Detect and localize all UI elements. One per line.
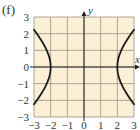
y-axis-label: y bbox=[87, 4, 93, 16]
y-axis-arrow-icon bbox=[82, 11, 87, 16]
x-axis-arrow-icon bbox=[135, 65, 140, 70]
y-tick-label: 3 bbox=[24, 11, 30, 23]
hyperbola-chart: yx −3−2−10123−3−2−10123 bbox=[0, 0, 140, 130]
x-tick-label: 2 bbox=[115, 119, 121, 130]
x-tick-label: 0 bbox=[81, 119, 87, 130]
y-tick-label: 1 bbox=[24, 44, 30, 56]
y-tick-label: 2 bbox=[24, 28, 30, 40]
y-tick-label: 0 bbox=[24, 61, 30, 73]
y-tick-label: −1 bbox=[17, 78, 29, 90]
x-axis-label: x bbox=[134, 53, 140, 65]
x-tick-label: −2 bbox=[45, 119, 57, 130]
x-tick-label: 3 bbox=[131, 119, 137, 130]
x-tick-label: −1 bbox=[61, 119, 73, 130]
x-tick-label: 1 bbox=[98, 119, 104, 130]
x-tick-label: −3 bbox=[28, 119, 40, 130]
y-tick-label: −2 bbox=[17, 94, 29, 106]
